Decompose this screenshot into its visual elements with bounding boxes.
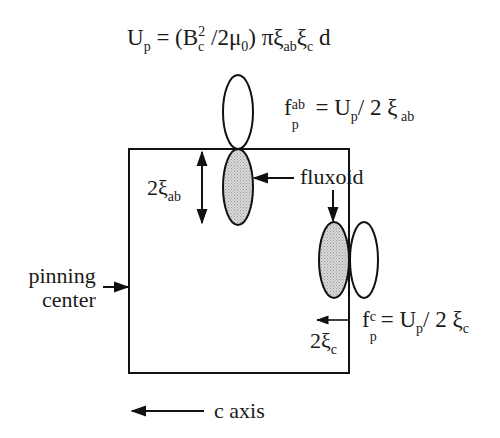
fab-u-sub: p (351, 109, 358, 124)
fluxoid-c-outer-lobe (350, 222, 378, 298)
formula-u-sub: p (144, 39, 151, 54)
force-c-formula: fcp= Up/ 2 ξc (362, 308, 469, 331)
fab-sub: p (292, 118, 299, 132)
formula-xi-ab-sub: ab (284, 39, 297, 54)
fc-sub: p (370, 330, 377, 344)
xi-c-label: 2ξc (310, 330, 337, 352)
xi-ab-text: 2ξ (147, 175, 168, 200)
formula-bc-sub: c (198, 39, 204, 54)
formula-mid: /2μ (205, 25, 241, 50)
xi-ab-sub: ab (168, 189, 181, 204)
c-axis-label: c axis (214, 400, 265, 422)
formula-rest: ) πξ (248, 25, 283, 50)
formula-u: U (127, 25, 144, 50)
diagram-svg (0, 0, 500, 438)
fc-xi-sub: c (463, 321, 469, 336)
fc-u-sub: p (416, 321, 423, 336)
xi-c-text: 2ξ (310, 328, 331, 353)
diagram-canvas: Up = (Bc2 /2μ0) πξabξc d fabp = Up/ 2 ξ … (0, 0, 500, 438)
fluxoid-ab-outer-lobe (223, 75, 253, 149)
pinning-label-line1: pinning (24, 264, 96, 288)
fc-eq: = U (381, 307, 416, 332)
pinning-energy-formula: Up = (Bc2 /2μ0) πξabξc d (127, 26, 331, 49)
xi-c-sub: c (331, 342, 337, 357)
fab-f: f (284, 95, 292, 120)
fc-rest: / 2 ξ (423, 307, 463, 332)
fluxoid-c-inner-lobe (319, 222, 349, 298)
fc-f: f (362, 307, 370, 332)
xi-ab-label: 2ξab (147, 177, 181, 199)
pinning-label-line2: center (24, 288, 96, 312)
fluxoid-label: fluxoid (300, 166, 364, 188)
fluxoid-ab-inner-lobe (223, 149, 253, 225)
force-ab-formula: fabp = Up/ 2 ξ ab (284, 96, 414, 119)
pinning-center-label: pinning center (24, 264, 96, 312)
formula-eq: = (B (151, 25, 198, 50)
fab-sup: ab (292, 98, 305, 112)
formula-xi-c: ξ (297, 25, 307, 50)
fab-rest: / 2 ξ (358, 95, 398, 120)
fab-eq: = U (310, 95, 351, 120)
formula-d: d (313, 25, 330, 50)
fab-xi-sub: ab (397, 109, 414, 124)
fc-sup: c (370, 310, 376, 324)
